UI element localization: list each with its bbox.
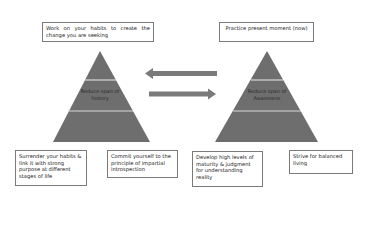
- pyramid-left-label-line1: Reduce span of: [81, 88, 120, 95]
- bottom-box-develop-maturity: Develop high levels of maturity & judgme…: [192, 151, 263, 187]
- bottom-box-balanced-living-text: Strive for balanced living: [293, 153, 342, 166]
- pyramid-left: Reduce span of history: [53, 51, 150, 142]
- pyramid-left-label-line2: history: [91, 95, 108, 102]
- bottom-box-balanced-living: Strive for balanced living: [289, 150, 353, 174]
- arrow-right-icon: [149, 89, 216, 100]
- bottom-box-surrender-habits-text: Surrender your habits & link it with str…: [19, 153, 81, 179]
- bottom-box-surrender-habits: Surrender your habits & link it with str…: [15, 150, 87, 186]
- bottom-box-commit-introspection: Commit yourself to the principle of impa…: [107, 150, 178, 178]
- pyramid-right-label-line1: Reduce span of: [248, 88, 287, 95]
- bottom-box-develop-maturity-text: Develop high levels of maturity & judgme…: [196, 154, 254, 180]
- pyramid-right-label-line2: Awareness: [254, 95, 281, 101]
- bottom-box-commit-introspection-text: Commit yourself to the principle of impa…: [111, 153, 171, 172]
- pyramid-right: Reduce span of Awareness: [215, 51, 318, 142]
- arrow-left-icon: [145, 68, 217, 79]
